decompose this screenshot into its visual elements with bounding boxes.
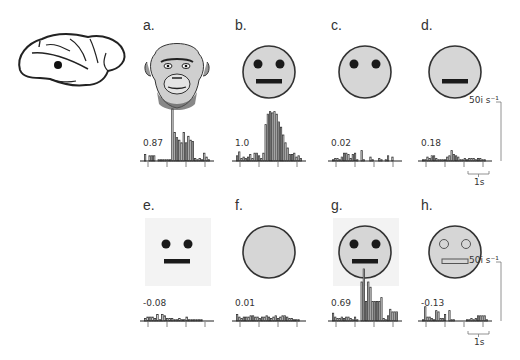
scale-bar-time-label: 1s <box>474 177 484 187</box>
schematic-face-stimulus <box>229 32 309 112</box>
brain-lateral-view-icon <box>10 25 130 100</box>
peristimulus-histogram <box>140 103 214 163</box>
panel-label: e. <box>143 197 155 213</box>
time-axis-ticks <box>328 322 402 330</box>
peristimulus-histogram <box>140 263 214 323</box>
time-axis-ticks <box>232 162 306 170</box>
time-axis-ticks <box>140 162 214 170</box>
panel-label: d. <box>421 17 433 33</box>
time-axis-ticks <box>140 322 214 330</box>
peristimulus-histogram <box>232 103 306 163</box>
schematic-face-stimulus <box>325 32 405 112</box>
peristimulus-histogram <box>232 263 306 323</box>
scale-bar <box>460 262 520 352</box>
time-axis-ticks <box>232 322 306 330</box>
scale-bar-rate-label: 50i s⁻¹ <box>469 255 499 265</box>
panel-label: a. <box>143 17 155 33</box>
peristimulus-histogram <box>328 263 402 323</box>
scale-bar-time-label: 1s <box>474 337 484 347</box>
panel-label: b. <box>235 17 247 33</box>
chimpanzee-face-image <box>137 32 217 112</box>
time-axis-ticks <box>328 162 402 170</box>
panel-label: g. <box>331 197 343 213</box>
scale-bar <box>460 102 520 192</box>
panel-label: f. <box>235 197 243 213</box>
scale-bar-rate-label: 50i s⁻¹ <box>469 95 499 105</box>
panel-label: h. <box>421 197 433 213</box>
peristimulus-histogram <box>328 103 402 163</box>
recording-site-dot <box>54 61 62 69</box>
panel-label: c. <box>331 17 342 33</box>
